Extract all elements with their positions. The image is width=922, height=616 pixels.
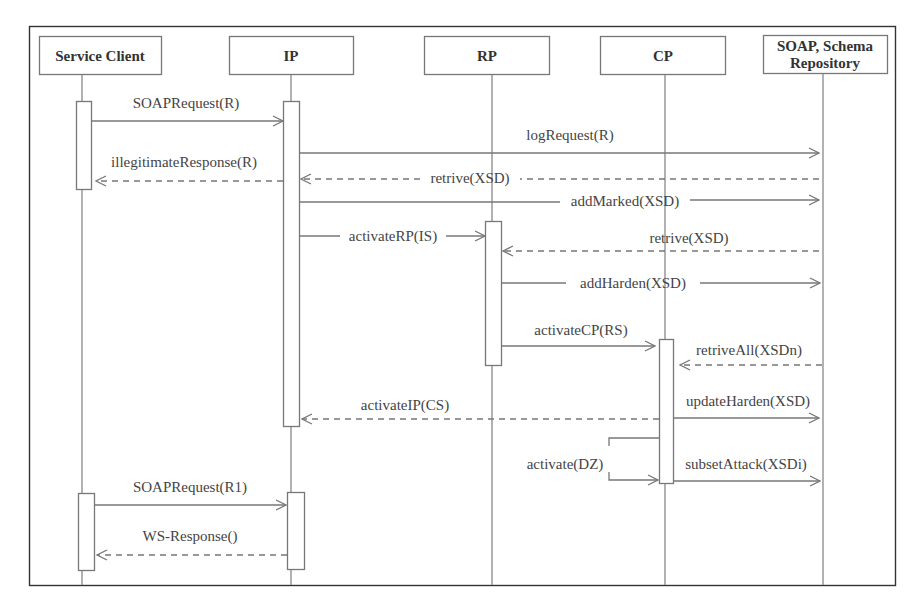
- message-label-soaprequest-r1: SOAPRequest(R1): [133, 479, 247, 496]
- message-label-activate-dz: activate(DZ): [527, 456, 604, 473]
- participant-label: RP: [477, 48, 497, 64]
- activation-cp-1: [660, 340, 674, 484]
- activation-ip-2: [288, 493, 305, 570]
- message-label-retriveall: retriveAll(XSDn): [696, 342, 802, 359]
- participant-cp: CP: [601, 37, 726, 75]
- activation-client-1: [77, 102, 92, 190]
- participant-label-line-2: Repository: [790, 55, 860, 71]
- sequence-diagram: Service Client IP RP CP SOAP, Schema Rep…: [0, 0, 922, 616]
- participant-label: CP: [653, 48, 673, 64]
- message-label-subsetattack: subsetAttack(XSDi): [685, 456, 807, 473]
- message-label-retrive-xsd-2: retrive(XSD): [649, 230, 728, 247]
- activation-rp-1: [486, 222, 502, 366]
- message-label-logrequest: logRequest(R): [526, 127, 614, 144]
- activation-ip-1: [284, 102, 300, 427]
- participant-ip: IP: [230, 37, 354, 75]
- message-label-activatecp: activateCP(RS): [534, 322, 627, 339]
- message-label-addharden: addHarden(XSD): [580, 275, 686, 292]
- message-label-addmarked: addMarked(XSD): [571, 193, 679, 210]
- message-label-illegitimate-response: illegitimateResponse(R): [111, 154, 257, 171]
- activation-client-2: [79, 494, 95, 571]
- message-label-ws-response: WS-Response(): [143, 528, 238, 545]
- message-label-activateip: activateIP(CS): [361, 397, 449, 414]
- participant-label: Service Client: [55, 48, 145, 64]
- message-label-updateharden: updateHarden(XSD): [686, 393, 810, 410]
- participant-label: IP: [284, 48, 299, 64]
- message-label-activaterp: activateRP(IS): [349, 228, 437, 245]
- participant-service-client: Service Client: [40, 37, 162, 75]
- participant-label-line-1: SOAP, Schema: [777, 38, 874, 54]
- message-label-retrive-xsd-1: retrive(XSD): [430, 170, 509, 187]
- message-label-soaprequest-r: SOAPRequest(R): [133, 95, 240, 112]
- participant-rp: RP: [425, 37, 550, 75]
- participant-repository: SOAP, Schema Repository: [764, 36, 888, 74]
